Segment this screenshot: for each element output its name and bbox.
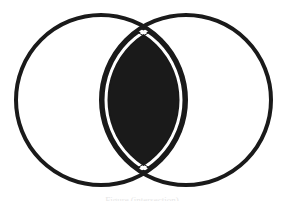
figure-caption: Figure (intersection) [0,195,284,201]
venn-diagram-canvas: Figure (intersection) [0,0,284,201]
venn-diagram [0,0,284,201]
